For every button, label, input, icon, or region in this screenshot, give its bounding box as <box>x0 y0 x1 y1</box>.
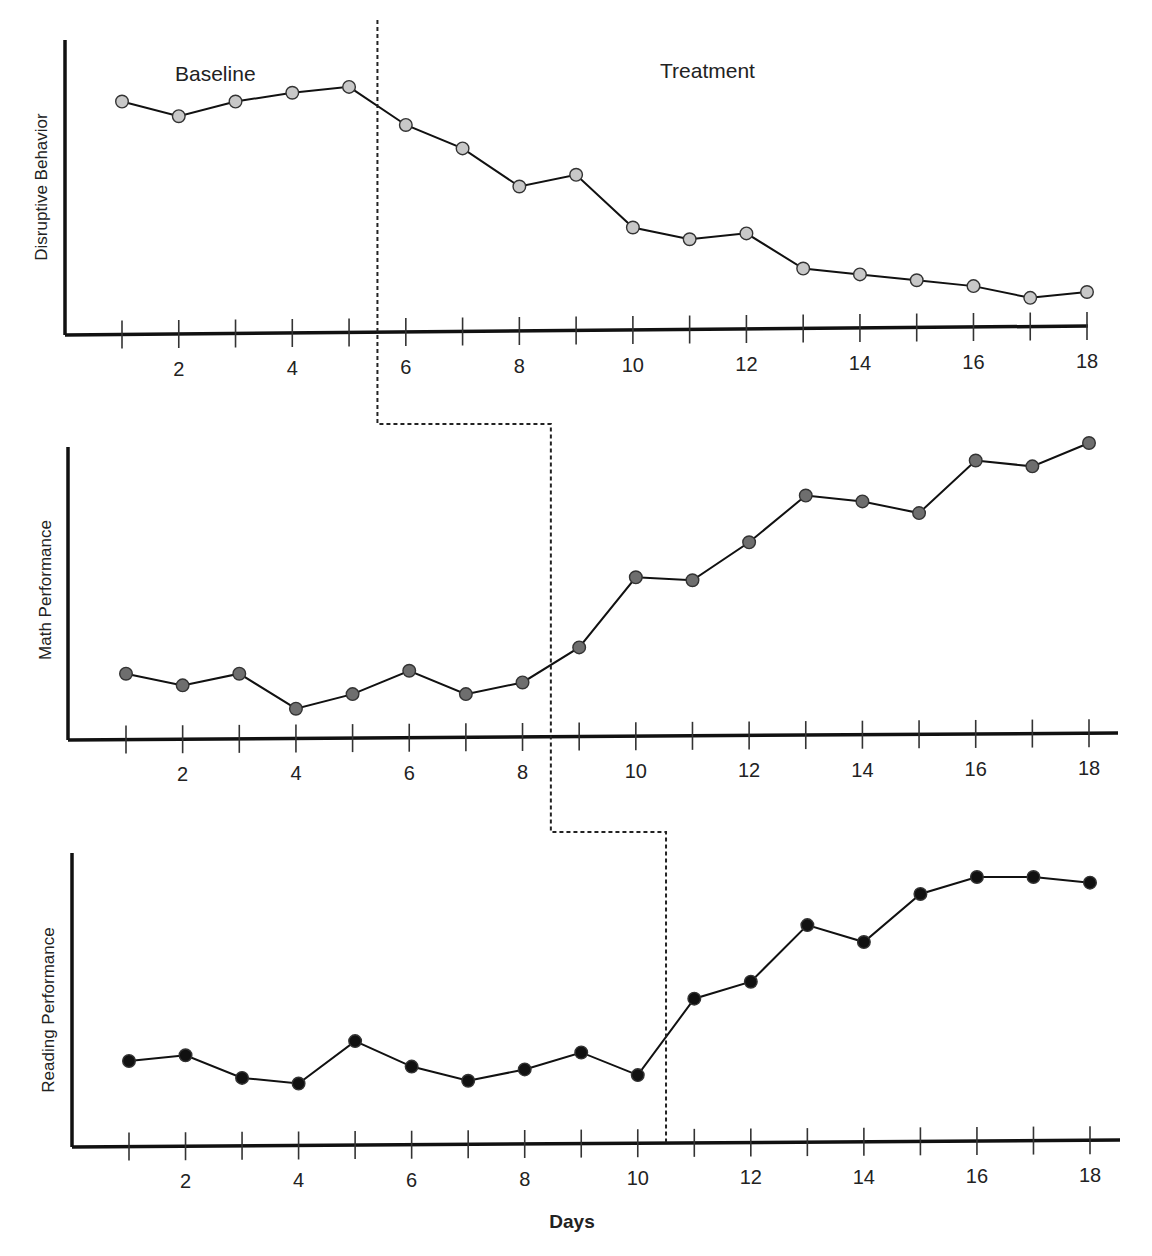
x-tick-label: 6 <box>404 762 415 784</box>
data-point-marker <box>176 679 189 692</box>
data-point-marker <box>683 233 696 246</box>
data-point-marker <box>631 1069 644 1082</box>
data-point-marker <box>462 1074 475 1087</box>
data-point-marker <box>403 664 416 677</box>
data-point-marker <box>745 975 758 988</box>
data-point-marker <box>236 1072 249 1085</box>
baseline-label: Baseline <box>175 62 256 85</box>
x-tick-label: 10 <box>622 354 644 376</box>
x-tick-label: 6 <box>406 1169 417 1191</box>
x-axis <box>68 733 1118 740</box>
y-axis-title-reading: Reading Performance <box>39 927 58 1092</box>
x-tick-label: 2 <box>177 763 188 785</box>
data-point-marker <box>627 221 640 234</box>
data-point-marker <box>969 454 982 467</box>
series-line <box>129 877 1090 1084</box>
y-axis-title-disruptive: Disruptive Behavior <box>32 113 51 261</box>
treatment-label: Treatment <box>660 59 755 82</box>
x-tick-label: 8 <box>519 1168 530 1190</box>
data-point-marker <box>575 1046 588 1059</box>
data-point-marker <box>910 274 923 287</box>
x-tick-label: 4 <box>293 1169 304 1191</box>
data-point-marker <box>971 871 984 884</box>
data-point-marker <box>292 1077 305 1090</box>
data-point-marker <box>456 142 469 155</box>
data-point-marker <box>349 1035 362 1048</box>
data-point-marker <box>233 667 246 680</box>
data-point-marker <box>513 180 526 193</box>
x-tick-label: 2 <box>173 358 184 380</box>
x-tick-label: 14 <box>849 352 871 374</box>
x-tick-label: 4 <box>290 762 301 784</box>
x-tick-label: 18 <box>1078 757 1100 779</box>
x-tick-label: 16 <box>962 351 984 373</box>
panel-2: 24681012141618 <box>68 437 1118 786</box>
data-point-marker <box>914 888 927 901</box>
data-point-marker <box>797 262 810 275</box>
data-point-marker <box>1081 286 1094 299</box>
data-point-marker <box>573 641 586 654</box>
data-point-marker <box>229 95 242 108</box>
data-point-marker <box>743 536 756 549</box>
x-tick-label: 14 <box>853 1166 875 1188</box>
data-point-marker <box>856 495 869 508</box>
data-point-marker <box>1026 460 1039 473</box>
data-point-marker <box>1027 871 1040 884</box>
data-point-marker <box>286 86 299 99</box>
data-point-marker <box>172 110 185 123</box>
panel-1: 24681012141618 <box>65 40 1098 380</box>
data-point-marker <box>1083 437 1096 450</box>
x-tick-label: 18 <box>1079 1164 1101 1186</box>
x-axis-title: Days <box>549 1211 594 1232</box>
x-tick-label: 6 <box>400 356 411 378</box>
x-tick-label: 16 <box>965 758 987 780</box>
x-axis <box>72 1140 1120 1147</box>
data-point-marker <box>290 702 303 715</box>
x-tick-label: 12 <box>740 1166 762 1188</box>
data-point-marker <box>854 268 867 281</box>
data-point-marker <box>967 280 980 293</box>
x-tick-label: 14 <box>851 759 873 781</box>
x-tick-label: 12 <box>735 353 757 375</box>
data-point-marker <box>116 95 129 108</box>
x-tick-label: 10 <box>625 760 647 782</box>
data-point-marker <box>123 1055 136 1068</box>
x-tick-label: 8 <box>514 355 525 377</box>
data-point-marker <box>686 574 699 587</box>
data-point-marker <box>1024 292 1037 305</box>
data-point-marker <box>346 688 359 701</box>
x-tick-label: 4 <box>287 357 298 379</box>
x-tick-label: 8 <box>517 761 528 783</box>
data-point-marker <box>400 119 413 132</box>
data-point-marker <box>570 168 583 181</box>
series-line <box>126 443 1089 709</box>
data-point-marker <box>518 1063 531 1076</box>
data-point-marker <box>801 919 814 932</box>
data-point-marker <box>630 571 643 584</box>
x-tick-label: 2 <box>180 1170 191 1192</box>
x-tick-label: 16 <box>966 1165 988 1187</box>
data-point-marker <box>405 1060 418 1073</box>
data-point-marker <box>740 227 753 240</box>
data-point-marker <box>179 1049 192 1062</box>
x-tick-label: 12 <box>738 759 760 781</box>
data-point-marker <box>1084 876 1097 889</box>
x-tick-label: 18 <box>1076 350 1098 372</box>
series-line <box>122 87 1087 298</box>
panel-3: 24681012141618 <box>72 853 1120 1192</box>
data-point-marker <box>799 489 812 502</box>
multiple-baseline-chart: 2468101214161824681012141618246810121416… <box>0 0 1152 1256</box>
y-axis-title-math: Math Performance <box>36 520 55 660</box>
data-point-marker <box>913 507 926 520</box>
data-point-marker <box>858 936 871 949</box>
x-tick-label: 10 <box>627 1167 649 1189</box>
data-point-marker <box>460 688 473 701</box>
data-point-marker <box>688 992 701 1005</box>
data-point-marker <box>516 676 529 689</box>
data-point-marker <box>120 667 133 680</box>
data-point-marker <box>343 81 356 94</box>
